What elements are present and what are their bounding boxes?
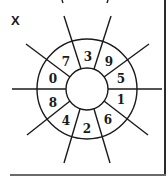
number-wheel-figure: X 3 9 5 1 6 2 bbox=[0, 0, 168, 177]
inner-circle bbox=[66, 68, 108, 110]
segment-number-bottom-left: 4 bbox=[62, 114, 70, 128]
frame-border-right bbox=[164, 0, 166, 176]
frame-border-bottom bbox=[10, 174, 166, 176]
segment-number-right-lower: 1 bbox=[117, 93, 125, 107]
segment-number-bottom: 2 bbox=[83, 122, 91, 136]
wheel-diagram: 3 9 5 1 6 2 4 8 0 7 bbox=[0, 0, 168, 177]
segment-number-left-lower: 8 bbox=[49, 96, 57, 110]
segment-number-left-upper: 0 bbox=[49, 72, 57, 86]
segment-number-bottom-right: 6 bbox=[104, 113, 112, 127]
previous-figure-fragment bbox=[62, 0, 63, 3]
segment-number-top-right: 9 bbox=[105, 55, 113, 69]
segment-number-right-upper: 5 bbox=[117, 72, 125, 86]
segment-number-top-left: 7 bbox=[62, 55, 70, 69]
segment-number-top: 3 bbox=[84, 50, 92, 64]
previous-figure-fragment bbox=[107, 0, 108, 3]
